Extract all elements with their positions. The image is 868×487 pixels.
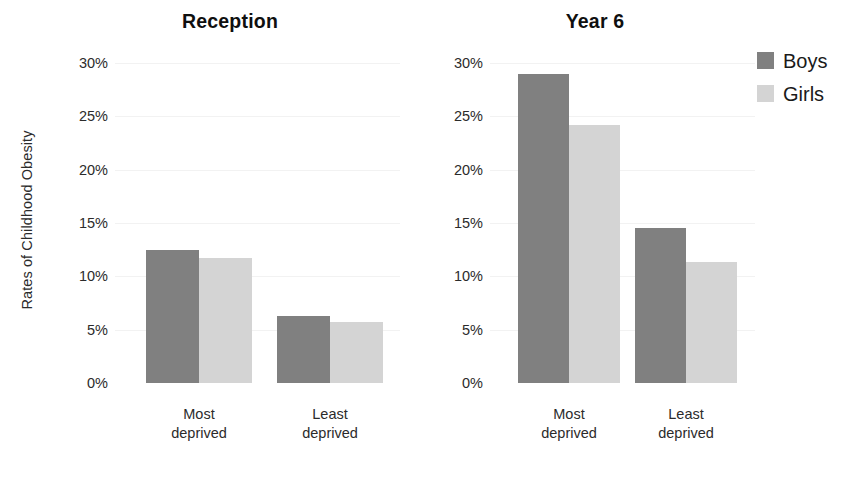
gridline	[115, 170, 400, 171]
panel-title-reception: Reception	[60, 10, 400, 33]
y-tick-label: 0%	[435, 375, 483, 391]
y-tick-label: 25%	[60, 108, 108, 124]
y-tick-label: 20%	[435, 162, 483, 178]
x-category-label-most-deprived: Most deprived	[509, 405, 629, 443]
y-tick-label: 10%	[435, 268, 483, 284]
y-tick-label: 15%	[435, 215, 483, 231]
gridline	[115, 223, 400, 224]
y-tick-label: 15%	[60, 215, 108, 231]
panel-title-year6: Year 6	[435, 10, 755, 33]
bar-boys-most-deprived	[518, 74, 569, 383]
plot-area-reception	[115, 63, 400, 383]
y-tick-label: 30%	[435, 55, 483, 71]
legend-item-boys[interactable]: Boys	[757, 44, 867, 77]
gridline	[490, 63, 755, 64]
bar-girls-most-deprived	[199, 258, 252, 383]
y-axis-title: Rates of Childhood Obesity	[14, 40, 40, 400]
bar-girls-least-deprived	[686, 262, 737, 383]
legend-item-girls[interactable]: Girls	[757, 77, 867, 110]
legend-swatch-boys-icon	[757, 52, 774, 69]
chart-legend: Boys Girls	[757, 44, 867, 110]
legend-label-girls: Girls	[783, 84, 824, 104]
chart-panel-reception: Reception 30%25%20%15%10%5%0% Most depri…	[60, 0, 400, 487]
y-tick-label: 20%	[60, 162, 108, 178]
bar-boys-least-deprived	[277, 316, 330, 383]
y-tick-label: 30%	[60, 55, 108, 71]
x-category-label-least-deprived: Least deprived	[626, 405, 746, 443]
legend-swatch-girls-icon	[757, 85, 774, 102]
legend-label-boys: Boys	[783, 51, 827, 71]
x-category-label-most-deprived: Most deprived	[139, 405, 259, 443]
gridline	[115, 63, 400, 64]
chart-figure: Rates of Childhood Obesity Reception 30%…	[0, 0, 868, 487]
bar-boys-least-deprived	[635, 228, 686, 383]
chart-panel-year6: Year 6 30%25%20%15%10%5%0% Most deprived…	[435, 0, 755, 487]
gridline	[115, 116, 400, 117]
y-tick-label: 0%	[60, 375, 108, 391]
y-tick-label: 5%	[60, 322, 108, 338]
plot-area-year6	[490, 63, 755, 383]
bar-girls-least-deprived	[330, 322, 383, 383]
y-axis-ticks-reception: 30%25%20%15%10%5%0%	[60, 0, 108, 487]
bar-girls-most-deprived	[569, 125, 620, 383]
bar-boys-most-deprived	[146, 250, 199, 383]
y-tick-label: 25%	[435, 108, 483, 124]
y-tick-label: 10%	[60, 268, 108, 284]
x-category-label-least-deprived: Least deprived	[270, 405, 390, 443]
y-tick-label: 5%	[435, 322, 483, 338]
y-axis-ticks-year6: 30%25%20%15%10%5%0%	[435, 0, 483, 487]
